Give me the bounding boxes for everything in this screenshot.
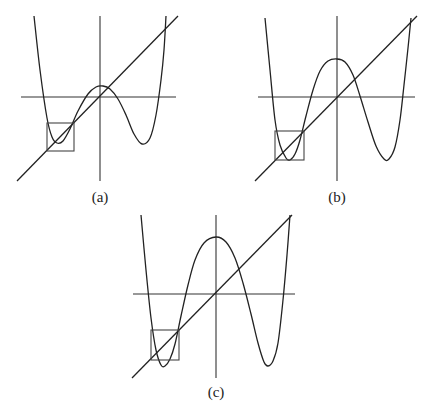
panel-b: (b)	[255, 16, 417, 206]
panel-label: (a)	[92, 189, 109, 206]
identity-line	[17, 16, 178, 181]
identity-line	[255, 16, 417, 181]
panel-a: (a)	[17, 16, 178, 206]
panel-c: (c)	[132, 215, 295, 401]
figure-canvas: (a) (b) (c)	[0, 0, 425, 417]
panel-label: (c)	[208, 384, 225, 401]
function-curve	[265, 18, 411, 161]
identity-line	[132, 215, 292, 378]
panel-label: (b)	[328, 189, 346, 206]
